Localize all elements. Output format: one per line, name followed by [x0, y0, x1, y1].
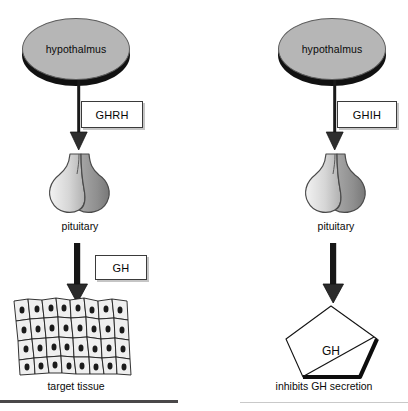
hormone-box-gh-left: GH	[95, 255, 147, 280]
hormone-box-ghih: GHIH	[337, 101, 397, 128]
hypothalamus-ellipse-body: hypothalmus	[22, 18, 130, 80]
hormone-label-ghrh: GHRH	[95, 109, 128, 121]
pituitary-gland-left	[46, 152, 114, 220]
arrow-pituitary-to-inhibition	[320, 243, 348, 305]
hormone-label-ghih: GHIH	[353, 109, 381, 121]
hypothalamus-label-right: hypothalmus	[302, 43, 363, 55]
hypothalamus-label-left: hypothalmus	[46, 43, 107, 55]
hypothalamus-ellipse-right: hypothalmus	[278, 18, 386, 80]
panel-stimulation: hypothalmus GHRH	[0, 0, 204, 411]
pituitary-caption-left: pituitary	[24, 220, 136, 232]
pituitary-gland-right	[302, 152, 370, 220]
diagram-canvas: hypothalmus GHRH	[0, 0, 408, 411]
panel-inhibition: hypothalmus GHIH	[204, 0, 408, 411]
inhibits-gh-secretion-caption: inhibits GH secretion	[244, 380, 404, 392]
bottom-rule-right	[240, 402, 408, 403]
arrow-pituitary-to-tissue	[64, 243, 92, 305]
target-tissue-icon	[11, 297, 138, 377]
hormone-label-gh-left: GH	[113, 262, 130, 274]
pentagon-gh-text: GH	[322, 344, 340, 358]
hypothalamus-ellipse-left: hypothalmus	[22, 18, 130, 80]
pituitary-caption-right: pituitary	[280, 220, 392, 232]
target-tissue-caption: target tissue	[16, 380, 136, 392]
bottom-rule-left	[0, 400, 178, 403]
crossed-out-gh-pentagon-icon: GH	[280, 303, 382, 383]
hormone-box-ghrh: GHRH	[81, 101, 143, 128]
hypothalamus-ellipse-body-right: hypothalmus	[278, 18, 386, 80]
